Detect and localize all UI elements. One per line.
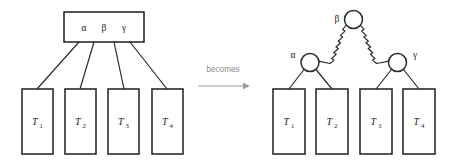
before-edge-1 (37, 42, 79, 89)
after-subtree-sub-4: 4 (421, 122, 425, 129)
before-subtree-sub-4: 4 (170, 122, 174, 129)
after-node-beta (345, 11, 363, 29)
after-squiggly-edge-beta-alpha (319, 26, 346, 64)
before-edge-2 (80, 42, 94, 89)
before-key-alpha: α (82, 23, 87, 33)
right-arrow-icon (243, 83, 250, 89)
after-subtree-sub-2: 2 (334, 122, 338, 129)
after-edge-gamma-t4 (404, 70, 420, 90)
after-node-gamma (389, 54, 407, 72)
transformation-figure: α β γ T 1 T 2 T 3 T 4 becomes β (0, 0, 450, 166)
before-key-gamma: γ (121, 23, 126, 33)
transition-group: becomes (198, 65, 250, 89)
after-subtree-sub-1: 1 (291, 122, 294, 129)
before-edge-4 (130, 42, 167, 89)
after-edge-alpha-t2 (316, 70, 332, 90)
after-node-alpha-label: α (291, 50, 296, 60)
after-subtree-sub-3: 3 (378, 122, 382, 129)
before-subtree-sub-1: 1 (40, 122, 43, 129)
after-diagram: β α γ T 1 T 2 T 3 T 4 (273, 11, 435, 155)
before-edge-3 (114, 42, 124, 89)
after-edge-gamma-t3 (376, 70, 392, 90)
after-node-alpha (301, 54, 319, 72)
after-node-beta-label: β (335, 14, 340, 24)
after-squiggly-edge-beta-gamma (361, 26, 389, 64)
before-subtree-sub-3: 3 (126, 122, 130, 129)
before-subtree-sub-2: 2 (83, 122, 87, 129)
after-edge-alpha-t1 (289, 70, 304, 90)
becomes-label: becomes (206, 65, 239, 74)
after-node-gamma-label: γ (412, 50, 417, 60)
before-diagram: α β γ T 1 T 2 T 3 T 4 (22, 12, 183, 154)
before-key-beta: β (102, 23, 107, 33)
